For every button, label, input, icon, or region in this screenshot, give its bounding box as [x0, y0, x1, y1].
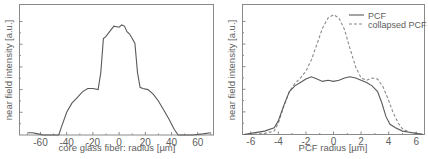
legend-label-collapsed-pcf: collapsed PCF	[368, 20, 427, 30]
left-y-axis-label: near field intensity [a.u.]	[3, 20, 14, 120]
x-tick-label: -6	[246, 136, 255, 147]
core-glass-fiber-curve	[27, 25, 211, 135]
left-plot-frame	[20, 5, 214, 136]
x-tick-label: 6	[413, 136, 419, 147]
pcf-curve	[244, 77, 423, 135]
x-tick-label: -4	[274, 136, 283, 147]
right-x-axis-label: PCF radius [µm]	[299, 142, 368, 153]
left-x-axis-label: core glass fiber: radius [µm]	[59, 142, 176, 153]
figure: -60-40-200204060 core glass fiber: radiu…	[0, 0, 428, 159]
left-panel: -60-40-200204060 core glass fiber: radiu…	[3, 5, 214, 154]
legend: PCF collapsed PCF	[349, 11, 427, 30]
right-panel: -6-4-20246 PCF radius [µm] near field in…	[226, 5, 427, 154]
right-y-axis-label: near field intensity [a.u.]	[226, 20, 237, 120]
x-tick-label: 60	[192, 137, 204, 148]
x-tick-label: 4	[386, 136, 392, 147]
collapsed-pcf-curve	[244, 15, 423, 135]
x-tick-label: -60	[33, 137, 48, 148]
